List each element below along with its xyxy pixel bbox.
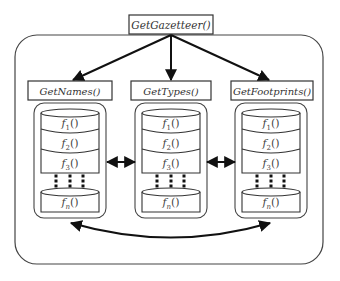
function-label: f2() xyxy=(161,137,179,152)
component-label: GetTypes() xyxy=(143,86,199,97)
function-label: fn() xyxy=(161,196,179,211)
function-label: f1() xyxy=(161,117,179,132)
edge-root-to-names xyxy=(73,35,171,80)
component-footprints: GetFootprints() xyxy=(231,81,313,100)
stack-types: f1()f2()f3()fn() xyxy=(135,103,207,218)
function-label: f2() xyxy=(60,137,78,152)
function-label: f3() xyxy=(261,157,279,172)
function-label: f2() xyxy=(261,137,279,152)
edge-root-to-footprints xyxy=(171,35,269,80)
component-label: GetFootprints() xyxy=(233,86,311,97)
function-label: f3() xyxy=(60,157,78,172)
function-label: fn() xyxy=(60,196,78,211)
stack-names: f1()f2()f3()fn() xyxy=(34,103,106,218)
edge-names-footprints-curved xyxy=(71,223,270,238)
root-node: GetGazetteer() xyxy=(129,15,213,34)
database-stacks: f1()f2()f3()fn()f1()f2()f3()fn()f1()f2()… xyxy=(34,103,307,218)
stack-footprints: f1()f2()f3()fn() xyxy=(235,103,307,218)
function-label: f1() xyxy=(261,117,279,132)
gazetteer-diagram: GetGazetteer() GetNames() GetTypes() Get… xyxy=(0,0,340,281)
function-label: fn() xyxy=(261,196,279,211)
function-label: f3() xyxy=(161,157,179,172)
function-label: f1() xyxy=(60,117,78,132)
root-label: GetGazetteer() xyxy=(131,19,210,31)
root-edges xyxy=(73,35,269,80)
component-types: GetTypes() xyxy=(131,81,211,100)
component-label: GetNames() xyxy=(40,86,101,97)
component-names: GetNames() xyxy=(28,81,112,100)
